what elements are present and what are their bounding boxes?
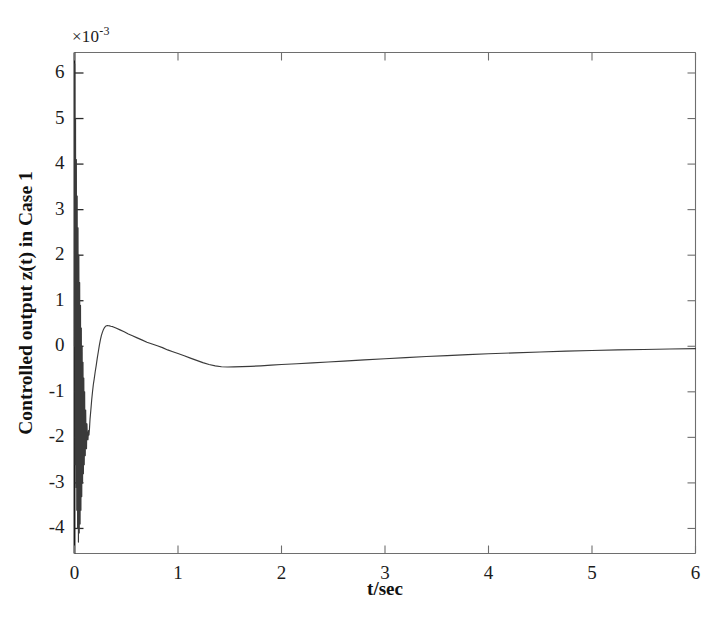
y-tick-label: 6 bbox=[13, 61, 65, 83]
series-z-of-t bbox=[75, 64, 696, 542]
y-tick-label: -4 bbox=[13, 516, 65, 538]
data-series-line bbox=[75, 64, 696, 542]
exponent-prefix: ×10 bbox=[72, 27, 99, 46]
plot-area bbox=[0, 0, 728, 622]
axes-frame bbox=[75, 53, 696, 554]
x-axis-title-text: t/sec bbox=[367, 578, 403, 599]
y-axis-title-text: Controlled output z(t) in Case 1 bbox=[15, 171, 36, 434]
axis-ticks bbox=[75, 53, 696, 554]
figure-canvas: ×10-3 6543210-1-2-3-4 0123456 t/sec Cont… bbox=[0, 0, 728, 622]
exponent-superscript: -3 bbox=[99, 24, 109, 38]
y-axis-title-wrapper: Controlled output z(t) in Case 1 bbox=[15, 123, 41, 483]
x-axis-title: t/sec bbox=[75, 578, 696, 600]
y-axis-exponent-label: ×10-3 bbox=[72, 24, 110, 47]
